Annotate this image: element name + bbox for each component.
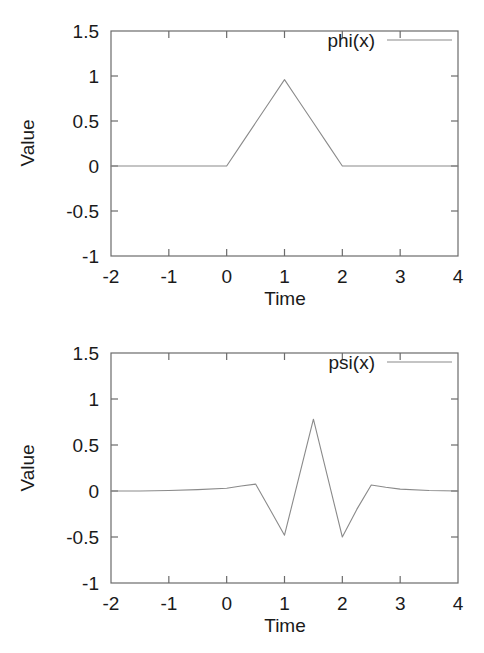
legend-label-psi: psi(x) <box>329 352 375 373</box>
x-ticks-psi <box>169 353 400 583</box>
y-tick-label: -0.5 <box>66 201 99 222</box>
y-tick-label: -1 <box>82 246 99 267</box>
y-axis-title-psi: Value <box>17 444 38 491</box>
x-tick-label: -2 <box>103 266 120 287</box>
series-line-psi <box>111 419 458 537</box>
x-tick-label: 2 <box>337 266 348 287</box>
y-tick-label: 1 <box>88 389 99 410</box>
x-ticks-phi <box>169 31 400 256</box>
x-tick-label: 3 <box>395 266 406 287</box>
y-ticks-phi <box>111 76 458 211</box>
x-axis-title-phi: Time <box>264 288 306 309</box>
x-tick-label: 2 <box>337 593 348 614</box>
y-tick-label: -0.5 <box>66 527 99 548</box>
y-tick-label: 1 <box>88 66 99 87</box>
y-tick-label: 1.5 <box>73 343 99 364</box>
plot-frame-phi <box>111 31 458 256</box>
chart-psi: -1-0.500.511.5 -2-101234 psi(x) Time Val… <box>0 322 484 653</box>
x-tick-label: 0 <box>221 266 232 287</box>
series-line-phi <box>111 80 458 166</box>
x-axis-title-psi: Time <box>264 615 306 636</box>
y-axis-title-phi: Value <box>17 119 38 166</box>
y-tick-label: 0 <box>88 481 99 502</box>
chart-psi-svg: -1-0.500.511.5 -2-101234 psi(x) Time Val… <box>0 322 484 653</box>
x-tick-label: 0 <box>221 593 232 614</box>
y-tick-label: 0.5 <box>73 111 99 132</box>
x-tick-label: 3 <box>395 593 406 614</box>
legend-psi: psi(x) <box>329 352 452 373</box>
y-tick-label: 1.5 <box>73 21 99 42</box>
x-tick-labels-psi: -2-101234 <box>103 593 464 614</box>
series-phi <box>111 80 458 166</box>
x-tick-label: 4 <box>453 266 464 287</box>
plot-frame-psi <box>111 353 458 583</box>
x-tick-label: -1 <box>160 593 177 614</box>
y-ticks-psi <box>111 399 458 537</box>
chart-phi: -1-0.500.511.5 -2-101234 phi(x) Time Val… <box>0 0 484 327</box>
x-tick-label: 4 <box>453 593 464 614</box>
y-tick-label: -1 <box>82 573 99 594</box>
x-tick-label: -2 <box>103 593 120 614</box>
x-tick-label: -1 <box>160 266 177 287</box>
y-tick-label: 0 <box>88 156 99 177</box>
x-tick-label: 1 <box>279 266 290 287</box>
y-tick-labels-phi: -1-0.500.511.5 <box>66 21 99 267</box>
y-tick-label: 0.5 <box>73 435 99 456</box>
y-tick-labels-psi: -1-0.500.511.5 <box>66 343 99 594</box>
legend-label-phi: phi(x) <box>327 30 375 51</box>
legend-phi: phi(x) <box>327 30 452 51</box>
chart-phi-svg: -1-0.500.511.5 -2-101234 phi(x) Time Val… <box>0 0 484 327</box>
x-tick-label: 1 <box>279 593 290 614</box>
x-tick-labels-phi: -2-101234 <box>103 266 464 287</box>
series-psi <box>111 419 458 537</box>
